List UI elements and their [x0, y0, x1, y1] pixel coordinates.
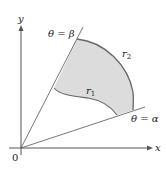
r2-label: r2	[122, 48, 131, 61]
x-axis-label: x	[155, 142, 161, 153]
beta-ray-label: θ = β	[48, 28, 75, 39]
ray-alpha	[21, 107, 145, 148]
polar-region-diagram: y x 0 θ = β θ = α r2 r1	[0, 0, 166, 170]
alpha-ray-label: θ = α	[131, 113, 159, 124]
x-axis-arrow-icon	[147, 146, 153, 151]
y-axis-label: y	[17, 13, 24, 24]
origin-label: 0	[12, 152, 18, 163]
y-axis-arrow-icon	[19, 25, 24, 31]
